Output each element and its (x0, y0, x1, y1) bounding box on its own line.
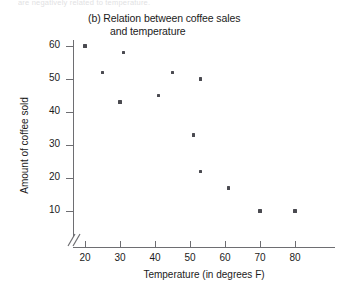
data-point (227, 186, 231, 190)
x-tick-mark (155, 241, 156, 248)
y-axis-line (73, 40, 74, 237)
y-tick-mark (66, 79, 73, 80)
x-tick-label: 20 (72, 252, 98, 263)
data-point (199, 77, 203, 81)
data-point (118, 100, 122, 104)
x-tick-mark (190, 241, 191, 248)
y-tick-mark (66, 145, 73, 146)
data-point (122, 51, 126, 55)
x-tick-mark (260, 241, 261, 248)
x-tick-mark (225, 241, 226, 248)
data-point (192, 133, 196, 137)
data-point (101, 71, 105, 75)
data-point (157, 94, 161, 98)
x-tick-label: 30 (107, 252, 133, 263)
y-tick-mark (66, 178, 73, 179)
y-tick-label: 10 (34, 204, 60, 215)
x-tick-label: 40 (142, 252, 168, 263)
data-point (199, 170, 203, 174)
x-tick-label: 50 (177, 252, 203, 263)
y-tick-label: 40 (34, 105, 60, 116)
x-tick-mark (85, 241, 86, 248)
x-tick-mark (120, 241, 121, 248)
data-point (171, 71, 175, 75)
scatter-plot: 102030405060 20304050607080 Amount of co… (0, 0, 342, 294)
data-point (258, 209, 262, 213)
y-tick-mark (66, 112, 73, 113)
data-point (83, 44, 87, 48)
axis-break-icon (64, 228, 88, 252)
y-tick-label: 30 (34, 138, 60, 149)
y-tick-label: 50 (34, 72, 60, 83)
x-tick-label: 70 (247, 252, 273, 263)
y-axis-title: Amount of coffee sold (19, 66, 30, 226)
y-tick-label: 20 (34, 171, 60, 182)
y-tick-mark (66, 46, 73, 47)
y-tick-mark (66, 211, 73, 212)
x-tick-label: 60 (212, 252, 238, 263)
x-tick-label: 80 (282, 252, 308, 263)
data-point (293, 209, 297, 213)
x-tick-mark (295, 241, 296, 248)
x-axis-title: Temperature (in degrees F) (73, 269, 335, 280)
y-tick-label: 60 (34, 39, 60, 50)
